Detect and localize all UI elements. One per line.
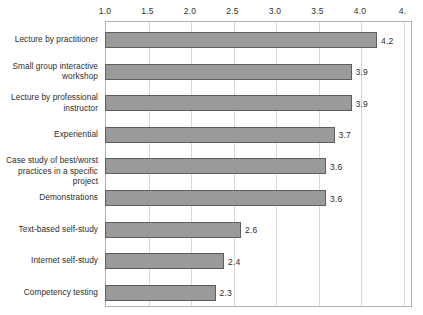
category-label: Lecture by practitioner bbox=[15, 34, 98, 45]
bar-value-label: 2.3 bbox=[220, 288, 232, 298]
bar-value-label: 3.6 bbox=[330, 162, 342, 172]
category-label: Competency testing bbox=[24, 287, 98, 298]
category-label: Text-based self-study bbox=[19, 224, 98, 235]
category-label: Case study of best/worst practices in a … bbox=[0, 155, 98, 187]
x-tick-label: 3.0 bbox=[269, 6, 281, 16]
category-label: Internet self-study bbox=[31, 255, 98, 266]
category-label: Lecture by professional instructor bbox=[11, 92, 98, 113]
bar bbox=[105, 158, 326, 174]
bar bbox=[105, 127, 335, 143]
bar-value-label: 2.4 bbox=[228, 257, 240, 267]
bar bbox=[105, 253, 224, 269]
bar bbox=[105, 32, 377, 48]
bar-value-label: 2.6 bbox=[245, 225, 257, 235]
x-tick-label: 3.5 bbox=[311, 6, 323, 16]
category-label: Small group interactive workshop bbox=[12, 61, 98, 82]
bar-value-label: 3.7 bbox=[339, 130, 351, 140]
category-label: Demonstrations bbox=[39, 192, 98, 203]
bar-value-label: 3.9 bbox=[356, 99, 368, 109]
bar-value-label: 3.6 bbox=[330, 194, 342, 204]
x-tick-label: 1.5 bbox=[141, 6, 153, 16]
x-tick-label: 1.0 bbox=[99, 6, 111, 16]
x-tick-label: 4.0 bbox=[354, 6, 366, 16]
x-tick-label: 2.5 bbox=[226, 6, 238, 16]
gridline bbox=[361, 22, 362, 306]
x-tick-label: 2.0 bbox=[184, 6, 196, 16]
bar-value-label: 3.9 bbox=[356, 67, 368, 77]
category-label: Experiential bbox=[54, 129, 98, 140]
bar bbox=[105, 95, 352, 111]
bar-value-label: 4.2 bbox=[381, 36, 393, 46]
bar bbox=[105, 222, 241, 238]
bar bbox=[105, 190, 326, 206]
bar bbox=[105, 64, 352, 80]
bar bbox=[105, 285, 216, 301]
horizontal-bar-chart: 1.01.52.02.53.03.54.04. Lecture by pract… bbox=[0, 0, 423, 315]
gridline bbox=[404, 22, 405, 306]
x-tick-label: 4. bbox=[399, 6, 407, 16]
x-axis-tick-labels: 1.01.52.02.53.03.54.04. bbox=[0, 6, 423, 20]
